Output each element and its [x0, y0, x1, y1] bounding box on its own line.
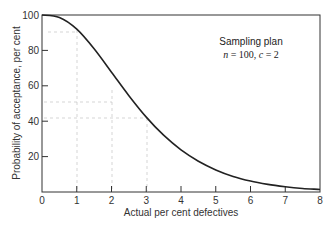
y-tick-80: 80 [28, 45, 40, 56]
y-tick-labels: 20 40 60 80 100 [22, 10, 39, 162]
x-tick-6: 6 [248, 195, 254, 206]
x-tick-8: 8 [317, 195, 323, 206]
y-tick-100: 100 [22, 10, 39, 21]
x-tick-7: 7 [282, 195, 288, 206]
y-tick-20: 20 [28, 151, 40, 162]
y-ticks [42, 50, 48, 156]
x-tick-0: 0 [39, 195, 45, 206]
annotation-title: Sampling plan [219, 36, 282, 47]
y-tick-40: 40 [28, 116, 40, 127]
x-ticks [77, 186, 286, 192]
y-axis-title: Probability of acceptance, per cent [11, 26, 22, 180]
x-tick-1: 1 [74, 195, 80, 206]
guide-lines [44, 30, 147, 192]
x-axis-title: Actual per cent defectives [124, 207, 239, 218]
oc-curve-chart: 20 40 60 80 100 0 1 2 3 4 5 6 7 8 Actual… [0, 0, 333, 226]
annotation-plan-params: n = 100, c = 2 [223, 49, 279, 60]
x-tick-3: 3 [143, 195, 149, 206]
x-tick-4: 4 [178, 195, 184, 206]
x-tick-labels: 0 1 2 3 4 5 6 7 8 [39, 195, 323, 206]
x-tick-5: 5 [213, 195, 219, 206]
y-tick-60: 60 [28, 80, 40, 91]
x-tick-2: 2 [109, 195, 115, 206]
